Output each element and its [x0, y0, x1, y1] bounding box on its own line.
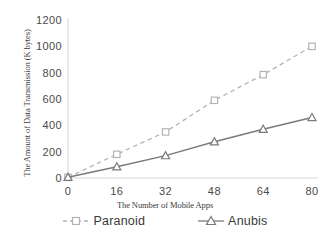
chart-container: The Amount of Data Transmission (K bytes… [0, 0, 330, 246]
data-point-marker-paranoid [211, 97, 217, 103]
data-point-marker-paranoid [260, 71, 266, 77]
data-point-marker-paranoid [309, 43, 315, 49]
square-marker-icon [62, 214, 90, 228]
series-line-anubis [68, 117, 312, 177]
legend-item-paranoid[interactable]: Paranoid [62, 214, 145, 228]
legend-label: Paranoid [93, 214, 145, 228]
series-line-paranoid [68, 46, 312, 177]
legend-label: Anubis [228, 214, 267, 228]
legend-item-anubis[interactable]: Anubis [197, 214, 267, 228]
x-axis-title: The Number of Mobile Apps [0, 200, 330, 210]
chart-legend: ParanoidAnubis [0, 214, 330, 228]
data-point-marker-paranoid [162, 129, 168, 135]
data-point-marker-anubis [308, 113, 316, 120]
legend-square [73, 218, 80, 225]
data-point-marker-paranoid [114, 151, 120, 157]
triangle-marker-icon [197, 214, 225, 228]
